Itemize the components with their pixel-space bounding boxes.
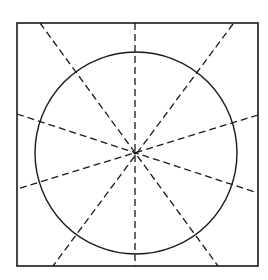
dashed-line-steep-right (53, 24, 233, 266)
dashed-radial-lines (17, 23, 258, 266)
outer-square (17, 23, 258, 266)
diagram-canvas (0, 0, 268, 280)
dashed-line-steep-left (40, 23, 218, 266)
center-point (134, 152, 137, 155)
